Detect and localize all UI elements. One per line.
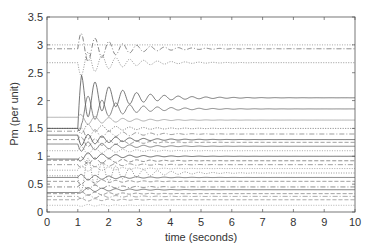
series-line-trace-11 <box>47 142 355 151</box>
y-tick-label: 3 <box>37 39 43 51</box>
series-layer <box>47 34 355 207</box>
x-tick-label: 5 <box>198 216 204 228</box>
y-tick-label: 2.5 <box>28 67 43 79</box>
x-tick-label: 4 <box>167 216 173 228</box>
y-tick-label: 1.5 <box>28 122 43 134</box>
series-line-trace-7 <box>47 124 355 133</box>
x-tick-label: 1 <box>75 216 81 228</box>
y-tick-label: 0.5 <box>28 178 43 190</box>
x-tick-label: 0 <box>44 216 50 228</box>
series-line-trace-24 <box>47 198 355 201</box>
x-tick-label: 8 <box>290 216 296 228</box>
series-line-trace-18 <box>47 174 355 180</box>
series-line-trace-17 <box>47 158 355 191</box>
x-tick-label: 2 <box>106 216 112 228</box>
series-line-trace-5 <box>47 96 355 130</box>
x-axis-label: time (seconds) <box>165 231 237 243</box>
series-line-trace-8 <box>47 127 355 139</box>
y-tick-label: 1 <box>37 150 43 162</box>
x-tick-label: 6 <box>229 216 235 228</box>
series-line-trace-13 <box>47 153 355 161</box>
series-line-trace-22 <box>47 192 355 196</box>
series-line-trace-3 <box>47 52 355 75</box>
series-line-trace-23 <box>47 195 355 199</box>
x-tick-label: 10 <box>349 216 361 228</box>
y-axis-label: Pm (per unit) <box>8 82 20 146</box>
x-tick-label: 9 <box>321 216 327 228</box>
series-line-trace-2 <box>47 34 355 62</box>
y-tick-label: 3.5 <box>28 11 43 23</box>
series-line-trace-15 <box>47 162 355 168</box>
series-line-trace-25 <box>47 204 355 206</box>
x-tick-label: 7 <box>260 216 266 228</box>
series-line-trace-20 <box>47 184 355 189</box>
y-tick-label: 0 <box>37 206 43 218</box>
y-tick-label: 2 <box>37 95 43 107</box>
x-tick-label: 3 <box>136 216 142 228</box>
series-line-trace-12 <box>47 147 355 154</box>
chart: 012345678910 00.511.522.533.5 time (seco… <box>0 0 367 251</box>
